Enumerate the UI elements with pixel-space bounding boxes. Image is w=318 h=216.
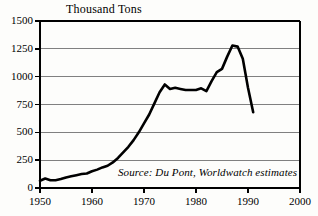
gridlines-group bbox=[40, 21, 300, 160]
x-tick-label: 2000 bbox=[280, 195, 318, 207]
y-tick-label: 250 bbox=[1, 153, 33, 165]
x-tick-label: 1980 bbox=[176, 195, 216, 207]
x-tick-label: 1990 bbox=[228, 195, 268, 207]
y-tick-label: 500 bbox=[1, 125, 33, 137]
y-tick-label: 750 bbox=[1, 98, 33, 110]
y-tick-label: 1250 bbox=[1, 42, 33, 54]
line-chart-plot bbox=[0, 0, 318, 216]
x-tick-label: 1970 bbox=[124, 195, 164, 207]
source-annotation: Source: Du Pont, Worldwatch estimates bbox=[118, 166, 297, 178]
chart-figure: Thousand Tons 1500125010007505002500 195… bbox=[0, 0, 318, 216]
y-tick-label: 1000 bbox=[1, 70, 33, 82]
x-tick-label: 1960 bbox=[72, 195, 112, 207]
y-tick-label: 1500 bbox=[1, 14, 33, 26]
x-tick-label: 1950 bbox=[20, 195, 60, 207]
y-tick-label: 0 bbox=[1, 181, 33, 193]
